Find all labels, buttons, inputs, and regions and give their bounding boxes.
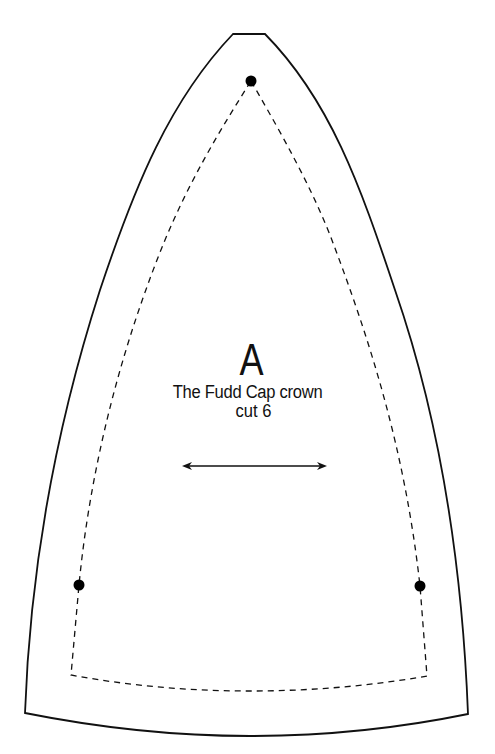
piece-letter: A xyxy=(49,338,455,382)
piece-title: The Fudd Cap crown xyxy=(20,382,475,402)
grainline-arrow-icon xyxy=(182,462,327,470)
notch-dot-top xyxy=(246,76,257,87)
notch-dot-left xyxy=(74,580,85,591)
notch-dot-right xyxy=(415,581,426,592)
cut-instruction: cut 6 xyxy=(26,401,481,421)
